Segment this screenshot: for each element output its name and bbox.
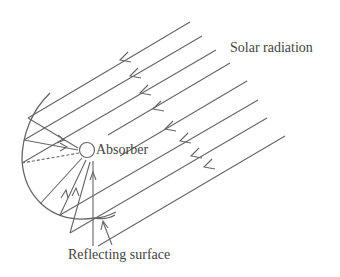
- ray-2: [24, 36, 202, 140]
- reflecting-surface-label: Reflecting surface: [68, 248, 170, 262]
- arrow-icon: [204, 159, 215, 169]
- solar-radiation-label: Solar radiation: [230, 41, 313, 55]
- arrow-icon: [140, 85, 151, 95]
- arrow-icon: [61, 190, 68, 198]
- ray-7: [70, 118, 267, 233]
- solar-collector-diagram: Solar radiation Absorber Reflecting surf…: [0, 0, 340, 277]
- reflected-rays: [22, 118, 93, 246]
- arrow-icon: [180, 133, 191, 143]
- arrow-icon: [120, 52, 131, 62]
- arrow-icon: [72, 188, 79, 196]
- absorber-label: Absorber: [96, 143, 148, 157]
- ray-1: [28, 22, 190, 118]
- ray-4: [108, 63, 230, 135]
- absorber-tube: [80, 143, 95, 158]
